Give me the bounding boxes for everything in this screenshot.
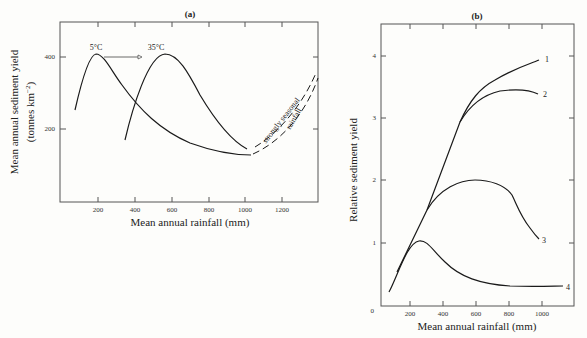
y-tick-label: 3 xyxy=(373,114,377,122)
curve-35c xyxy=(125,54,247,149)
curve-label-1: 1 xyxy=(545,55,549,64)
curve-3 xyxy=(427,180,539,239)
panel-b-frame xyxy=(381,24,574,306)
curve-1 xyxy=(397,60,539,272)
curve-label-4: 4 xyxy=(566,283,570,292)
panel-a-top-ticks xyxy=(98,22,282,27)
x-tick-label: 600 xyxy=(471,310,482,318)
panel-a-y-axis-title: Mean annual sediment yield xyxy=(8,49,20,174)
panel-b-x-axis-title: Mean annual rainfall (mm) xyxy=(418,320,537,333)
panel-b: (b) 200 400 600 800 1000 0 1 2 xyxy=(347,11,574,333)
y-tick-label: 1 xyxy=(373,239,377,247)
arrow-head-icon xyxy=(138,55,142,59)
panel-a-x-ticks xyxy=(98,197,282,202)
label-5c: 5°C xyxy=(90,43,103,52)
x-tick-label: 400 xyxy=(130,206,141,214)
x-tick-label: 200 xyxy=(405,310,416,318)
y-tick-label: 200 xyxy=(45,125,56,133)
panel-b-top-ticks xyxy=(410,24,542,29)
curve-label-2: 2 xyxy=(543,90,547,99)
panel-a-y-tick-labels: 200 400 xyxy=(45,53,56,133)
panel-b-x-ticks xyxy=(410,301,542,306)
panel-a-x-axis-title: Mean annual rainfall (mm) xyxy=(131,216,250,229)
x-tick-label: 400 xyxy=(438,310,449,318)
x-tick-label: 800 xyxy=(204,206,215,214)
x-tick-label: 600 xyxy=(167,206,178,214)
x-tick-label: 800 xyxy=(504,310,515,318)
x-tick-label: 1000 xyxy=(238,206,253,214)
panel-b-title: (b) xyxy=(472,11,483,21)
y-tick-label: 2 xyxy=(373,176,377,184)
panel-b-y-axis-title: Relative sediment yield xyxy=(347,118,359,222)
curve-4 xyxy=(389,241,563,292)
y-axis-units-close: ) xyxy=(24,82,37,86)
curve-2 xyxy=(460,90,538,122)
x-tick-label: 1000 xyxy=(535,310,550,318)
curve-5c xyxy=(75,54,251,155)
panel-a-y-axis-units: (tonnes km−2) xyxy=(24,82,37,143)
label-35c: 35°C xyxy=(148,43,165,52)
svg-text:(tonnes km−2): (tonnes km−2) xyxy=(24,82,37,143)
figure: (a) 200 400 600 800 1000 1200 200 xyxy=(0,0,587,338)
panel-a-title: (a) xyxy=(185,9,196,19)
panel-a: (a) 200 400 600 800 1000 1200 200 xyxy=(8,9,318,229)
y-axis-title-line1: Mean annual sediment yield xyxy=(8,49,20,174)
x-tick-label: 1200 xyxy=(275,206,290,214)
y-tick-label: 400 xyxy=(45,53,56,61)
panel-b-y-ticks xyxy=(381,56,574,243)
curve-label-3: 3 xyxy=(542,236,546,245)
svg-text:Relative sediment yield: Relative sediment yield xyxy=(347,118,359,222)
y-tick-label: 4 xyxy=(373,52,377,60)
panel-b-x-tick-labels: 200 400 600 800 1000 xyxy=(405,310,550,318)
y-axis-units: (tonnes km xyxy=(24,93,37,143)
panel-a-x-tick-labels: 200 400 600 800 1000 1200 xyxy=(93,206,290,214)
panel-b-y-tick-labels: 0 1 2 3 4 xyxy=(371,52,377,315)
x-tick-label: 200 xyxy=(93,206,104,214)
y-tick-label: 0 xyxy=(371,307,375,315)
